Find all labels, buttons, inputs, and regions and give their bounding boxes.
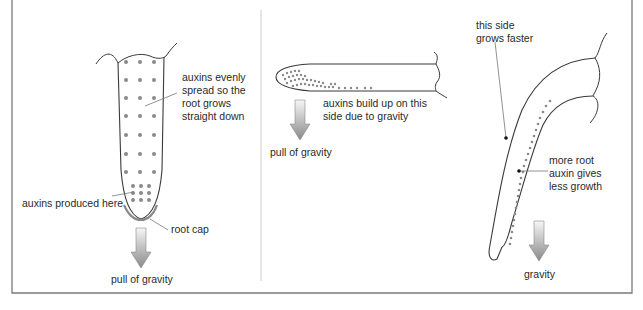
auxin-gravitropism-diagram: auxins evenly spread so the root grows s… [0,0,643,310]
label-auxins-spread: auxins evenly spread so the root grows s… [182,71,246,123]
leader-auxins-spread [145,93,177,106]
label-root-cap: root cap [171,223,209,236]
root-cut-end [434,52,447,98]
auxin-dots-even [124,60,156,174]
marker-outer-side [504,136,508,140]
marker-inner-side [517,169,521,173]
label-pull-of-gravity-left: pull of gravity [111,273,173,286]
bending-root [489,33,607,261]
root-cut-top [96,43,177,64]
leader-auxins-produced [112,192,134,196]
label-auxins-build-up: auxins build up on this side due to grav… [323,97,427,123]
label-pull-of-gravity-middle: pull of gravity [270,146,332,159]
label-more-root-auxin: more root auxin gives less growth [549,154,602,193]
root-cut-edge [590,33,607,123]
horizontal-root [276,52,447,140]
gravity-arrow-icon [529,221,549,261]
leader-grows-faster [495,42,506,138]
leader-root-cap [150,219,168,230]
auxin-dots-accumulated [282,70,372,89]
gravity-arrow-icon [131,228,151,268]
auxin-dots-produced [131,184,151,202]
label-gravity-right: gravity [524,268,555,281]
root-outline [276,64,436,91]
gravity-arrow-icon [290,100,310,140]
label-this-side-grows-faster: this side grows faster [476,19,533,45]
label-auxins-produced: auxins produced here [22,197,123,210]
straight-root [96,43,177,268]
